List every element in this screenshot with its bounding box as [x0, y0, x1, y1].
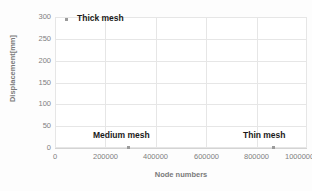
y-tick-label-200: 200	[29, 57, 51, 65]
gridline-vertical	[55, 17, 56, 148]
gridline-horizontal	[55, 83, 307, 84]
data-point-thick-mesh	[65, 18, 68, 21]
gridline-horizontal	[55, 39, 307, 40]
annotation-medium-mesh: Medium mesh	[93, 130, 150, 140]
x-tick-label-600000: 600000	[184, 153, 229, 161]
gridline-horizontal	[55, 126, 307, 127]
y-tick-label-300: 300	[29, 13, 51, 21]
gridline-vertical	[156, 17, 157, 148]
x-tick-label-200000: 200000	[83, 153, 128, 161]
annotation-thick-mesh: Thick mesh	[77, 13, 124, 23]
gridline-vertical	[206, 17, 207, 148]
y-axis-title: Displacement[mm]	[8, 19, 17, 119]
gridline-vertical	[257, 17, 258, 148]
y-tick-label-0: 0	[29, 144, 51, 152]
x-axis-title: Node numbers	[55, 170, 307, 179]
y-tick-label-250: 250	[29, 35, 51, 43]
plot-area	[55, 17, 307, 148]
scatter-chart: 300 250 200 150 100 50 0 0 200000 400000…	[0, 0, 312, 191]
x-tick-label-0: 0	[45, 153, 65, 161]
x-axis-line	[55, 148, 307, 149]
gridline-vertical	[105, 17, 106, 148]
data-point-thin-mesh	[272, 146, 275, 149]
data-point-medium-mesh	[127, 146, 130, 149]
x-tick-label-1000000: 1000000	[285, 153, 312, 161]
y-tick-label-50: 50	[29, 122, 51, 130]
y-tick-label-150: 150	[29, 79, 51, 87]
gridline-vertical	[306, 17, 307, 148]
x-tick-label-800000: 800000	[234, 153, 279, 161]
annotation-thin-mesh: Thin mesh	[243, 130, 286, 140]
gridline-horizontal	[55, 104, 307, 105]
y-tick-label-100: 100	[29, 100, 51, 108]
gridline-horizontal	[55, 61, 307, 62]
x-tick-label-400000: 400000	[133, 153, 178, 161]
